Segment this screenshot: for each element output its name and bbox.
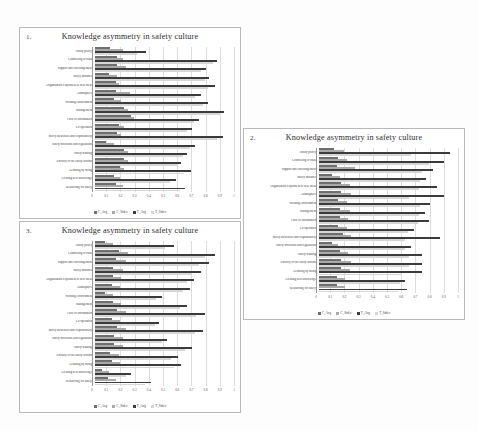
chart-title: Knowledge asymmetry in safety culture (20, 32, 240, 41)
bar-t_stdev (95, 190, 180, 192)
legend-item: T_Avg (357, 311, 370, 315)
category-label: Safety policy (20, 50, 95, 53)
bar-group (319, 276, 458, 285)
axis-tick-label: 0.9 (442, 295, 446, 299)
bar-group (95, 64, 234, 73)
bar-group (319, 242, 458, 251)
category-label: Atmosphere (244, 193, 319, 196)
category-label: Safety awareness and responsibility (244, 236, 319, 239)
bar-group (319, 182, 458, 191)
chart-row: Safety training (20, 149, 234, 158)
bar-group (95, 352, 234, 361)
legend-label: C_Stdev (116, 210, 127, 214)
legend-label: T_Stdev (155, 404, 166, 408)
category-label: Resourcing for safety (20, 186, 95, 189)
category-label: Safety awareness and responsibility (20, 329, 95, 332)
bar-group (319, 191, 458, 200)
category-label: Support and encouragement (20, 67, 95, 70)
chart-row: Management (244, 208, 458, 217)
category-label: Safety training (20, 152, 95, 155)
bar-group (95, 98, 234, 107)
category-label: Safety attitudes (20, 269, 95, 272)
bar-group (95, 73, 234, 82)
axis-tick-label: 0.7 (413, 295, 417, 299)
category-label: Creating new knowledge (20, 177, 95, 180)
category-label: Safety attitudes (244, 176, 319, 179)
legend-label: C_Avg (98, 404, 107, 408)
category-label: Co-operation (244, 227, 319, 230)
legend-label: C_Avg (98, 210, 107, 214)
axis-tick-label: 0.2 (118, 388, 122, 392)
category-label: Flow of information (20, 118, 95, 121)
category-label: Working environment (20, 295, 95, 298)
legend-swatch-icon (133, 211, 136, 214)
category-label: Management (20, 109, 95, 112)
category-label: Co-operation (20, 320, 95, 323)
legend-swatch-icon (151, 405, 154, 408)
legend-item: T_Avg (133, 210, 146, 214)
category-label: Efficacy of the safety actions (20, 354, 95, 357)
axis-tick-label: 0.7 (189, 194, 193, 198)
axis-tick-label: 0.5 (161, 194, 165, 198)
bar-group (95, 275, 234, 284)
category-label: Controlling of risks (244, 159, 319, 162)
legend-label: T_Avg (137, 210, 146, 214)
legend-label: T_Avg (361, 311, 370, 315)
chart-row: Support and encouragement (20, 64, 234, 73)
bar-group (319, 216, 458, 225)
axis-tick-label: 1 (233, 388, 235, 392)
axis-tick-label: 0.3 (357, 295, 361, 299)
plot-area: Safety policyControlling of risksSupport… (20, 239, 240, 412)
category-label: Safety training (244, 253, 319, 256)
axis-tick-label: 0.5 (161, 388, 165, 392)
bar-group (95, 318, 234, 327)
legend-swatch-icon (94, 405, 97, 408)
category-label: Controlling of risks (20, 252, 95, 255)
chart-row: Co-operation (20, 318, 234, 327)
legend-swatch-icon (151, 211, 154, 214)
chart-row: Safety policy (20, 47, 234, 56)
chart-row: Resourcing for safety (20, 183, 234, 192)
chart-row: Co-operation (20, 124, 234, 133)
legend-swatch-icon (112, 211, 115, 214)
page-canvas: 1. Knowledge asymmetry in safety culture… (0, 0, 478, 431)
bar-group (95, 343, 234, 352)
chart-row: Resourcing for safety (244, 284, 458, 293)
bar-group (95, 124, 234, 133)
bar-group (319, 233, 458, 242)
chart-row: Learning by doing (244, 267, 458, 276)
category-label: Atmosphere (20, 286, 95, 289)
axis-tick-label: 0.7 (189, 388, 193, 392)
chart-row: Atmosphere (20, 284, 234, 293)
chart-row: Safety awareness and responsibility (244, 233, 458, 242)
chart-row: Efficacy of the safety actions (20, 158, 234, 167)
chart-panel-2: 2. Knowledge asymmetry in safety culture… (243, 128, 465, 320)
chart-row: Management (20, 107, 234, 116)
category-label: Learning by doing (244, 270, 319, 273)
bar-rows: Safety policyControlling of risksSupport… (20, 47, 234, 192)
axis-tick-label: 0.1 (104, 194, 108, 198)
bar-group (319, 148, 458, 157)
axis-tick-label: 0.8 (428, 295, 432, 299)
bar-group (95, 377, 234, 386)
chart-row: Organization's openness to new ideas (244, 182, 458, 191)
legend-label: T_Stdev (155, 210, 166, 214)
legend-swatch-icon (357, 312, 360, 315)
category-label: Resourcing for safety (244, 287, 319, 290)
category-label: Efficacy of the safety actions (244, 261, 319, 264)
bar-group (95, 90, 234, 99)
chart-row: Safety directions and regulations (20, 141, 234, 150)
category-label: Organization's openness to new ideas (20, 278, 95, 281)
bar-group (95, 107, 234, 116)
bar-t_stdev (95, 384, 145, 386)
category-label: Safety training (20, 346, 95, 349)
axis-tick-label: 0.4 (147, 388, 151, 392)
axis-tick-label: 0.2 (342, 295, 346, 299)
axis-tick-label: 0.8 (204, 194, 208, 198)
bar-group (95, 267, 234, 276)
chart-row: Support and encouragement (244, 165, 458, 174)
chart-row: Organization's openness to new ideas (20, 81, 234, 90)
legend-swatch-icon (133, 405, 136, 408)
bar-group (95, 141, 234, 150)
chart-row: Support and encouragement (20, 258, 234, 267)
